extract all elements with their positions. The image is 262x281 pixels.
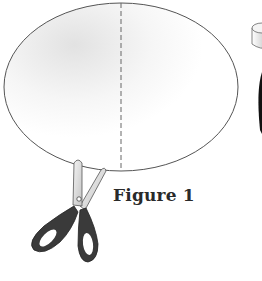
scissors-icon <box>32 160 106 262</box>
figure-caption: Figure 1 <box>113 185 195 205</box>
cylinder-object <box>252 23 262 134</box>
figure-1: Figure 1 <box>0 0 262 281</box>
